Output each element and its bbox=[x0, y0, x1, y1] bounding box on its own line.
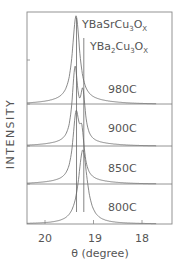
temp-label-800c: 800C bbox=[108, 201, 137, 214]
curve-850c bbox=[27, 110, 156, 183]
chart-svg: YBaSrCu3OX YBa2Cu3OX 980C 900C 850C 800C… bbox=[0, 0, 183, 266]
temp-label-900c: 900C bbox=[108, 122, 137, 135]
panel-dividers bbox=[27, 104, 172, 184]
xrd-peak-chart: YBaSrCu3OX YBa2Cu3OX 980C 900C 850C 800C… bbox=[0, 0, 183, 266]
curve-800c bbox=[27, 150, 156, 224]
x-tick-label-19: 19 bbox=[88, 232, 102, 245]
x-axis-label: θ (degree) bbox=[71, 247, 128, 260]
x-tick-label-20: 20 bbox=[38, 232, 52, 245]
ref-label-ybasrcu3ox: YBaSrCu3OX bbox=[81, 18, 147, 33]
curve-900c bbox=[27, 66, 156, 146]
ref-label-yba2cu3ox: YBa2Cu3OX bbox=[89, 40, 148, 55]
temp-label-850c: 850C bbox=[108, 162, 137, 175]
temp-label-980c: 980C bbox=[108, 83, 137, 96]
x-tick-label-18: 18 bbox=[135, 232, 149, 245]
y-axis-label: INTENSITY bbox=[4, 99, 17, 170]
